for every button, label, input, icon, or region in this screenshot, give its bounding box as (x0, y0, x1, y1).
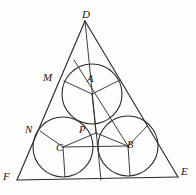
circle-center-label-a: A (87, 74, 93, 85)
geometry-figure: D E F M N A B C P (0, 0, 196, 195)
point-label-n: N (25, 124, 32, 135)
radius-b-to-p (96, 133, 128, 146)
triangle-def (17, 21, 178, 180)
vertex-label-f: F (3, 171, 10, 182)
point-label-m: M (43, 72, 52, 83)
circle-center-label-b: B (127, 140, 133, 151)
figure-canvas (0, 0, 196, 195)
point-label-p: P (79, 125, 85, 136)
radius-a-to-tangent-de (92, 80, 120, 94)
radii-circle-c (40, 131, 96, 177)
triangle-side-fe (17, 177, 178, 180)
triangle-side-df (17, 21, 85, 180)
vertex-label-d: D (82, 9, 90, 20)
connector-c-to-b (63, 146, 128, 147)
circle-center-label-c: C (56, 143, 63, 154)
radius-b-to-base (128, 146, 130, 176)
vertex-label-e: E (181, 166, 188, 177)
chord-lines (74, 21, 128, 180)
center-connectors (63, 146, 128, 147)
radius-c-to-base (63, 147, 65, 177)
radii-circle-b (96, 124, 149, 176)
